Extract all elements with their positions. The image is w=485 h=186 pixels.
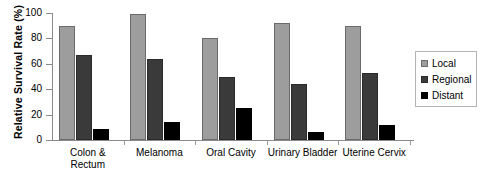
bar-regional <box>76 55 92 140</box>
bar-chart: Relative Survival Rate (%) 020406080100 … <box>0 0 485 186</box>
bar-regional <box>147 59 163 140</box>
bar-regional <box>362 73 378 140</box>
bar-group <box>345 13 395 140</box>
legend-item-distant[interactable]: Distant <box>421 89 472 101</box>
x-axis-line <box>52 140 414 141</box>
bar-distant <box>379 125 395 140</box>
y-axis-tick-label: 100 <box>14 7 42 18</box>
bar-distant <box>93 129 109 140</box>
bar-group <box>130 13 180 140</box>
legend-label: Regional <box>432 74 471 85</box>
bar-local <box>345 26 361 140</box>
bar-regional <box>219 77 235 141</box>
y-axis-tick-label: 60 <box>14 58 42 69</box>
x-axis-separator <box>410 140 411 145</box>
x-axis-separator <box>338 140 339 145</box>
legend-item-regional[interactable]: Regional <box>421 73 472 85</box>
y-axis-tick-label: 20 <box>14 109 42 120</box>
bar-distant <box>164 122 180 140</box>
y-axis-tick-label: 80 <box>14 32 42 43</box>
x-axis-separator <box>124 140 125 145</box>
bar-local <box>59 26 75 140</box>
legend-swatch-icon <box>421 60 428 67</box>
legend-label: Local <box>432 58 456 69</box>
legend-label: Distant <box>432 90 463 101</box>
y-axis-tick-label: 0 <box>14 134 42 145</box>
legend-swatch-icon <box>421 76 428 83</box>
bar-regional <box>291 84 307 140</box>
y-axis-tick-label: 40 <box>14 83 42 94</box>
legend-swatch-icon <box>421 92 428 99</box>
bar-distant <box>308 132 324 140</box>
y-axis-tick <box>46 140 52 141</box>
x-axis-separator <box>195 140 196 145</box>
bar-local <box>202 38 218 140</box>
plot-area <box>52 13 410 140</box>
bar-group <box>202 13 252 140</box>
chart-legend: LocalRegionalDistant <box>415 51 477 107</box>
x-axis-separator <box>267 140 268 145</box>
y-axis-title: Relative Survival Rate (%) <box>12 2 24 142</box>
bar-local <box>130 14 146 140</box>
x-axis-label-line: Uterine Cervix <box>332 147 416 159</box>
legend-item-local[interactable]: Local <box>421 57 472 69</box>
x-axis-label-line: Rectum <box>46 159 130 171</box>
bar-local <box>274 23 290 140</box>
bar-distant <box>236 108 252 140</box>
bar-group <box>59 13 109 140</box>
x-axis-label: Uterine Cervix <box>332 147 416 159</box>
bar-group <box>274 13 324 140</box>
